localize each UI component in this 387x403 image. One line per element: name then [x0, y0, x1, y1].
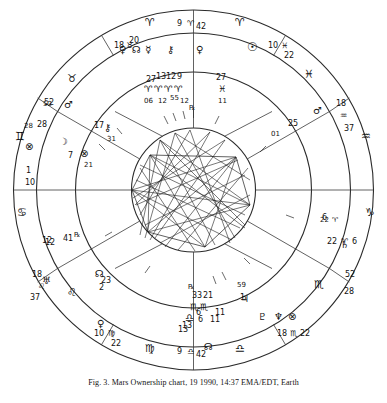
svg-text:9: 9 — [177, 347, 182, 356]
svg-text:♈: ♈ — [154, 84, 163, 94]
svg-text:10: 10 — [25, 178, 35, 187]
svg-text:18: 18 — [277, 329, 287, 338]
svg-text:06: 06 — [144, 97, 153, 105]
svg-text:22: 22 — [320, 216, 329, 224]
svg-text:28: 28 — [344, 287, 354, 296]
svg-text:♊: ♊ — [15, 130, 25, 143]
svg-text:♂: ♂ — [313, 105, 322, 116]
svg-text:♓: ♓ — [304, 68, 314, 81]
svg-text:52: 52 — [43, 100, 52, 108]
svg-text:18: 18 — [32, 270, 42, 279]
svg-text:12: 12 — [158, 97, 167, 105]
svg-text:27: 27 — [146, 75, 156, 84]
svg-text:♏: ♏ — [190, 302, 198, 312]
svg-text:♈: ♈ — [164, 84, 173, 94]
svg-text:♀: ♀ — [119, 44, 126, 55]
svg-text:28: 28 — [24, 122, 33, 130]
svg-text:1: 1 — [26, 166, 31, 175]
svg-text:23: 23 — [101, 276, 111, 285]
svg-text:♏: ♏ — [314, 278, 324, 291]
svg-text:22: 22 — [327, 237, 337, 246]
svg-text:♀: ♀ — [97, 318, 104, 329]
svg-text:12: 12 — [180, 97, 189, 105]
svg-text:9: 9 — [177, 72, 182, 81]
svg-text:37: 37 — [30, 293, 40, 302]
svg-text:♌: ♌ — [67, 286, 77, 299]
svg-text:⚷: ⚷ — [167, 44, 174, 55]
svg-text:♈: ♈ — [144, 84, 153, 94]
svg-text:♄: ♄ — [340, 239, 349, 250]
svg-text:♈: ♈ — [187, 19, 194, 28]
figure-caption: Fig. 3. Mars Ownership chart, 19 1990, 1… — [0, 378, 387, 387]
svg-text:♇: ♇ — [258, 311, 267, 322]
svg-text:℞: ℞ — [188, 283, 194, 291]
svg-text:℞: ℞ — [74, 231, 80, 239]
svg-text:⊗: ⊗ — [25, 141, 33, 152]
svg-text:☊: ☊ — [132, 44, 141, 55]
svg-text:♎: ♎ — [235, 342, 245, 355]
svg-text:♒: ♒ — [340, 111, 347, 120]
svg-text:♑: ♑ — [365, 206, 375, 219]
svg-text:☊: ☊ — [204, 341, 213, 352]
svg-text:7: 7 — [68, 151, 73, 160]
svg-text:10: 10 — [94, 329, 104, 338]
svg-text:33: 33 — [192, 291, 202, 300]
svg-text:⊗: ⊗ — [80, 148, 88, 159]
planet-glyphs-bottom: ℞ 33 21 ♏ ♏ ♎ 6 11 13 — [178, 283, 220, 334]
svg-text:♎: ♎ — [187, 347, 194, 356]
svg-text:42: 42 — [196, 22, 206, 31]
svg-text:22: 22 — [300, 329, 310, 338]
svg-text:♈: ♈ — [235, 16, 245, 29]
natal-chart-wheel: ♈ ♓ ♒ ♑ ♏ ♎ ♍ ♌ ♋ ♊ ♉ ♈ 9♈42 10♓22 18♒37… — [0, 0, 387, 380]
svg-text:55: 55 — [170, 94, 179, 102]
svg-text:11: 11 — [210, 315, 220, 324]
svg-text:℞: ℞ — [189, 104, 195, 112]
svg-text:⊗: ⊗ — [288, 311, 296, 322]
astrology-chart-figure: ♈ ♓ ♒ ♑ ♏ ♎ ♍ ♌ ♋ ♊ ♉ ♈ 9♈42 10♓22 18♒37… — [0, 0, 387, 403]
svg-text:6: 6 — [198, 315, 203, 324]
svg-text:01: 01 — [271, 130, 280, 138]
svg-text:☽: ☽ — [59, 136, 68, 147]
planet-glyph-cluster-top: ♀ ☊ ☿ ⚷ ♀ ☉ 27 13 12 9 27 ♈ ♈ ♈ ♈ ♓ 06 1… — [119, 40, 258, 112]
svg-text:♎: ♎ — [185, 312, 194, 323]
svg-text:18: 18 — [336, 99, 346, 108]
svg-text:♒: ♒ — [361, 130, 371, 143]
svg-text:♅: ♅ — [42, 275, 51, 286]
svg-text:♈: ♈ — [332, 216, 338, 224]
svg-text:22: 22 — [111, 339, 121, 348]
svg-text:⚷: ⚷ — [104, 122, 111, 133]
svg-text:♈: ♈ — [145, 16, 155, 29]
svg-text:21: 21 — [84, 161, 93, 169]
svg-text:12: 12 — [42, 236, 52, 245]
svg-text:17: 17 — [94, 121, 104, 130]
svg-text:♃: ♃ — [240, 293, 249, 304]
svg-text:59: 59 — [237, 281, 246, 289]
svg-text:28: 28 — [37, 120, 47, 129]
svg-text:♍: ♍ — [145, 342, 155, 355]
svg-text:31: 31 — [107, 135, 116, 143]
svg-text:12: 12 — [166, 72, 176, 81]
svg-text:♓: ♓ — [218, 84, 226, 94]
svg-text:♆: ♆ — [274, 311, 283, 322]
svg-text:♀: ♀ — [196, 44, 203, 55]
svg-text:☿: ☿ — [145, 44, 151, 55]
svg-text:☉: ☉ — [247, 40, 258, 54]
svg-text:10: 10 — [268, 41, 278, 50]
svg-text:♓: ♓ — [281, 41, 288, 50]
svg-text:37: 37 — [344, 124, 354, 133]
degree-number-labels: 22 ♈ — [320, 216, 338, 224]
svg-text:13: 13 — [156, 72, 166, 81]
svg-text:♉: ♉ — [67, 72, 77, 85]
svg-text:22: 22 — [284, 51, 294, 60]
planet-degree-ticks — [99, 110, 294, 284]
svg-text:52: 52 — [345, 270, 355, 279]
svg-text:25: 25 — [288, 119, 298, 128]
svg-text:♈: ♈ — [174, 84, 183, 94]
svg-text:♏: ♏ — [200, 302, 208, 312]
svg-text:27: 27 — [216, 73, 226, 82]
svg-text:6: 6 — [352, 237, 357, 246]
svg-text:13: 13 — [178, 325, 188, 334]
svg-text:11: 11 — [218, 97, 227, 105]
svg-text:♏: ♏ — [290, 329, 298, 338]
svg-text:41: 41 — [63, 234, 73, 243]
